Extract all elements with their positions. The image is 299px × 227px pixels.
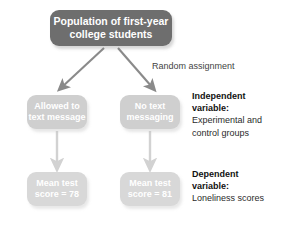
population-box-line1: Population of first-year (54, 15, 169, 28)
dependent-variable-title-line1: Dependent (192, 168, 296, 180)
condition-no-text-line2: messaging (126, 112, 173, 123)
dependent-variable-title-line2: variable: (192, 180, 296, 192)
branch-arrow-right (118, 48, 152, 87)
independent-variable-title-line2: variable: (192, 102, 296, 114)
dependent-variable-body-line1: Loneliness scores (192, 192, 296, 204)
independent-variable-title-line1: Independent (192, 90, 296, 102)
condition-allowed-line1: Allowed to (28, 101, 85, 112)
random-assignment-label: Random assignment (152, 60, 235, 72)
experiment-flow-diagram: Population of first-year college student… (0, 0, 299, 227)
condition-allowed-line2: text message (28, 112, 85, 123)
independent-variable-body-line1: Experimental and (192, 114, 296, 126)
outcome-box-left: Mean test score = 78 (27, 172, 87, 206)
dependent-variable-note: Dependent variable: Loneliness scores (192, 168, 296, 205)
outcome-left-line1: Mean test (35, 178, 79, 189)
outcome-box-right: Mean test score = 81 (120, 172, 180, 206)
condition-box-no-text: No text messaging (120, 95, 180, 129)
independent-variable-body-line2: control groups (192, 127, 296, 139)
outcome-right-line2: score = 81 (128, 189, 172, 200)
condition-no-text-line1: No text (126, 101, 173, 112)
population-box-line2: college students (54, 28, 169, 41)
outcome-right-line1: Mean test (128, 178, 172, 189)
condition-box-allowed: Allowed to text message (27, 95, 87, 129)
outcome-left-line2: score = 78 (35, 189, 79, 200)
independent-variable-note: Independent variable: Experimental and c… (192, 90, 296, 139)
branch-arrow-left (62, 48, 104, 87)
population-box: Population of first-year college student… (50, 10, 172, 46)
